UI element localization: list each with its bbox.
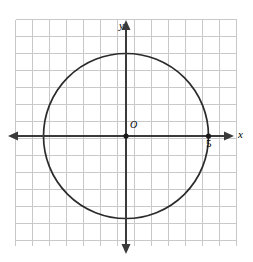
coordinate-plane-figure: y x O 5	[0, 0, 253, 262]
x-axis-left-arrow-icon	[8, 132, 18, 141]
y-axis-label: y	[119, 19, 124, 31]
origin-label: O	[130, 119, 137, 130]
x-axis	[8, 132, 234, 141]
x-axis-label: x	[238, 128, 243, 140]
coordinate-plane-svg	[0, 0, 253, 262]
x-axis-right-arrow-icon	[224, 132, 234, 141]
origin-point-dot	[123, 133, 128, 138]
x-tick-label-5: 5	[206, 137, 212, 149]
y-axis-bottom-arrow-icon	[122, 244, 131, 254]
